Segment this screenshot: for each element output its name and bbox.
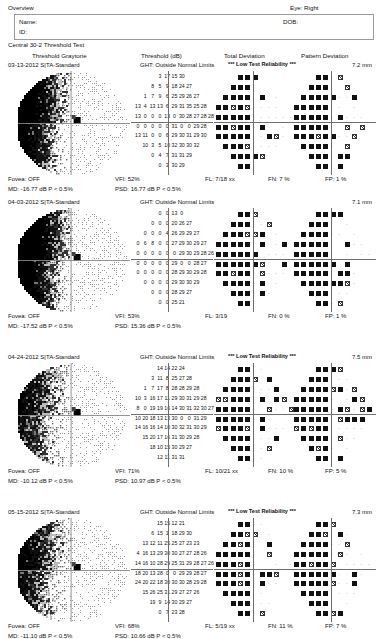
- deviation-symbol-filled: [245, 387, 250, 392]
- deviation-symbol-dotted: [282, 552, 286, 556]
- deviation-symbol-dark: [338, 212, 343, 217]
- deviation-symbol-filled: [223, 426, 228, 431]
- deviation-symbol-hatched: [338, 552, 343, 557]
- deviation-symbol-blank: .: [282, 252, 285, 255]
- deviation-symbol-filled: [231, 532, 236, 537]
- threshold-graytone-plot: [18, 208, 130, 312]
- deviation-symbol-filled: [323, 242, 328, 247]
- deviation-symbol-blank: .: [274, 252, 277, 255]
- deviation-symbol-dark: [238, 105, 243, 110]
- threshold-value: 28: [184, 375, 194, 381]
- deviation-symbol-dotted: [352, 125, 356, 129]
- pupil-diameter: 7.5 mm: [352, 354, 372, 360]
- vertical-meridian: [253, 71, 254, 175]
- deviation-symbol-filled: [260, 572, 265, 577]
- fixation-losses: FL: 7/18 xx: [205, 176, 235, 182]
- deviation-symbol-dark: [260, 417, 265, 422]
- deviation-symbol-filled: [245, 397, 250, 402]
- deviation-symbol-filled: [238, 407, 243, 412]
- deviation-symbol-blank: .: [360, 562, 363, 565]
- deviation-symbol-hatched: [282, 397, 287, 402]
- deviation-symbol-dotted: [267, 154, 271, 158]
- deviation-symbol-blank: .: [345, 581, 348, 584]
- deviation-symbol-filled: [323, 397, 328, 402]
- deviation-symbol-dark: [352, 95, 357, 100]
- deviation-symbol-hatched: [345, 85, 350, 90]
- deviation-symbol-filled: [323, 212, 328, 217]
- deviation-symbol-filled: [223, 542, 228, 547]
- deviation-symbol-blank: .: [345, 222, 348, 225]
- deviation-symbol-dotted: [274, 542, 278, 546]
- deviation-symbol-dotted: [260, 542, 264, 546]
- deviation-symbol-filled: [231, 281, 236, 286]
- deviation-symbol-blank: .: [267, 115, 270, 118]
- deviation-symbol-filled: [238, 522, 243, 527]
- deviation-symbol-blank: .: [338, 542, 341, 545]
- ght-result: GHT: Outside Normal Limits: [140, 62, 214, 68]
- deviation-symbol-dotted: [352, 542, 356, 546]
- deviation-symbol-filled: [316, 291, 321, 296]
- deviation-symbol-dotted: [282, 581, 286, 585]
- deviation-symbol-filled: [238, 611, 243, 616]
- deviation-symbol-blank: .: [282, 426, 285, 429]
- threshold-value: 27: [184, 83, 194, 89]
- deviation-symbol-filled: [238, 271, 243, 276]
- deviation-symbol-hatched: [294, 426, 299, 431]
- low-reliability-warning: *** Low Test Reliability ***: [228, 61, 296, 67]
- deviation-symbol-filled: [323, 591, 328, 596]
- deviation-symbol-filled: [301, 407, 306, 412]
- deviation-symbol-hatched: [267, 552, 272, 557]
- deviation-symbol-filled: [301, 581, 306, 586]
- deviation-symbol-filled: [323, 522, 328, 527]
- column-header-graytone: Threshold Graytone: [32, 52, 87, 59]
- deviation-symbol-filled: [309, 144, 314, 149]
- deviation-symbol-filled: [231, 85, 236, 90]
- deviation-symbol-filled: [316, 242, 321, 247]
- vertical-meridian: [168, 518, 169, 622]
- threshold-value: 21: [177, 299, 187, 305]
- patient-dob-label: DOB:: [283, 18, 298, 25]
- deviation-symbol-blank: .: [360, 552, 363, 555]
- foveal-sensitivity: Fovea: OFF: [8, 468, 40, 474]
- deviation-symbol-filled: [223, 572, 228, 577]
- deviation-symbol-filled: [245, 562, 250, 567]
- deviation-symbol-hatched: [267, 407, 272, 412]
- deviation-symbol-dotted: [360, 581, 364, 585]
- deviation-symbol-dotted: [274, 417, 278, 421]
- mean-deviation: MD: -11.10 dB P < 0.5%: [8, 633, 72, 639]
- deviation-symbol-filled: [238, 367, 243, 372]
- deviation-symbol-filled: [231, 436, 236, 441]
- deviation-symbol-filled: [338, 611, 343, 616]
- deviation-symbol-dark: [238, 426, 243, 431]
- threshold-value: 32: [191, 142, 201, 148]
- threshold-db-grid: 1515122161511829301312112525272323416132…: [131, 518, 213, 622]
- deviation-symbol-blank: .: [345, 532, 348, 535]
- vertical-meridian: [168, 363, 169, 467]
- deviation-symbol-blank: .: [267, 144, 270, 147]
- deviation-symbol-blank: .: [360, 572, 363, 575]
- deviation-symbol-hatched: [231, 105, 236, 110]
- deviation-symbol-filled: [245, 436, 250, 441]
- fixation-losses: FL: 5/19 xx: [205, 623, 235, 629]
- deviation-symbol-dotted: [274, 262, 278, 266]
- deviation-symbol-blank: .: [282, 125, 285, 128]
- low-reliability-warning: *** Low Test Reliability ***: [228, 508, 296, 514]
- test-type-title: Central 30-2 Threshold Test: [8, 41, 84, 48]
- vertical-meridian: [331, 518, 332, 622]
- deviation-symbol-filled: [231, 134, 236, 139]
- threshold-value: 28: [199, 395, 209, 401]
- deviation-symbol-filled: [294, 125, 299, 130]
- deviation-symbol-filled: [231, 262, 236, 267]
- deviation-symbol-blank: .: [267, 387, 270, 390]
- deviation-symbol-filled: [294, 262, 299, 267]
- deviation-symbol-blank: .: [260, 387, 263, 390]
- deviation-symbol-filled: [238, 95, 243, 100]
- deviation-symbol-blank: .: [345, 95, 348, 98]
- deviation-symbol-blank: .: [352, 242, 355, 245]
- report-type-label: Overview: [8, 4, 34, 11]
- deviation-symbol-filled: [323, 387, 328, 392]
- deviation-symbol-filled: [309, 397, 314, 402]
- deviation-symbol-dotted: [267, 591, 271, 595]
- deviation-symbol-filled: [238, 115, 243, 120]
- deviation-symbol-blank: .: [352, 281, 355, 284]
